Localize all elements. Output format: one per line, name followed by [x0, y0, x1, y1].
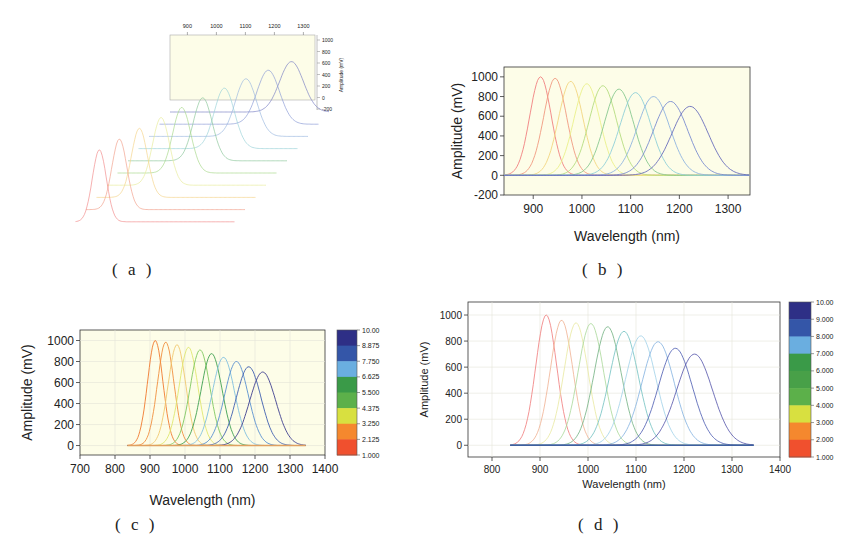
x-tick-label: 900: [532, 464, 549, 475]
x-tick-label: 1100: [239, 23, 251, 29]
colorbar-tick-label: 2.125: [362, 436, 380, 443]
x-tick-label: 900: [183, 23, 192, 29]
y-tick-label: 200: [478, 149, 498, 163]
colorbar-segment: [789, 371, 811, 389]
chart-c: 7008009001000110012001300140010008006004…: [0, 315, 400, 515]
colorbar-tick-label: 3.250: [362, 420, 380, 427]
colorbar-segment: [337, 408, 357, 424]
x-tick-label: 1100: [618, 202, 644, 216]
colorbar-segment: [789, 388, 811, 406]
colorbar-segment: [337, 393, 357, 409]
y-axis-title: Amplitude (mV): [338, 57, 344, 92]
panel-b: 900100011001200130010008006004002000-200…: [440, 50, 780, 250]
colorbar-segment: [789, 354, 811, 372]
x-tick-label: 1000: [569, 202, 596, 216]
y-tick-label: 0: [456, 440, 462, 451]
colorbar-tick-label: 3.000: [816, 419, 834, 426]
y-tick-label: 200: [322, 83, 331, 89]
x-tick-label: 1100: [207, 462, 233, 476]
x-tick-label: 900: [523, 202, 543, 216]
colorbar-tick-label: 5.500: [362, 389, 380, 396]
chart-b: 900100011001200130010008006004002000-200…: [440, 50, 780, 250]
x-tick-label: 1300: [297, 23, 309, 29]
y-tick-label: 200: [445, 414, 462, 425]
y-tick-label: 1000: [471, 70, 498, 84]
colorbar-segment: [789, 440, 811, 458]
y-tick-label: 800: [478, 90, 498, 104]
x-tick-label: 900: [140, 462, 160, 476]
y-tick-label: 600: [478, 109, 498, 123]
x-tick-label: 1000: [577, 464, 600, 475]
x-tick-label: 1300: [277, 462, 304, 476]
y-tick-label: 800: [54, 355, 74, 369]
y-tick-label: 0: [491, 169, 498, 183]
y-tick-label: 600: [54, 376, 74, 390]
chart-a-waterfall: 900100011001200130010008006004002000-200…: [0, 0, 400, 250]
colorbar-segment: [337, 439, 357, 455]
colorbar-tick-label: 6.625: [362, 373, 380, 380]
y-tick-label: 1000: [47, 334, 74, 348]
colorbar-tick-label: 7.750: [362, 358, 380, 365]
waterfall-trace-4: [107, 118, 266, 186]
colorbar-tick-label: 5.000: [816, 385, 834, 392]
colorbar-tick-label: 10.00: [362, 327, 380, 334]
colorbar-segment: [789, 423, 811, 441]
colorbar-segment: [789, 405, 811, 423]
y-tick-label: 600: [445, 362, 462, 373]
x-tick-label: 1200: [666, 202, 693, 216]
y-tick-label: 400: [54, 397, 74, 411]
y-tick-label: 1000: [322, 37, 333, 43]
colorbar-segment: [337, 346, 357, 362]
colorbar-tick-label: 6.000: [816, 367, 834, 374]
x-tick-label: 1200: [673, 464, 696, 475]
x-tick-label: 1100: [625, 464, 647, 475]
x-tick-label: 800: [105, 462, 125, 476]
colorbar-tick-label: 1.000: [362, 452, 380, 459]
y-tick-label: 800: [445, 336, 462, 347]
y-tick-label: 200: [54, 418, 74, 432]
colorbar-segment: [789, 319, 811, 337]
y-tick-label: 400: [478, 129, 498, 143]
colorbar-segment: [337, 330, 357, 346]
x-tick-label: 700: [70, 462, 90, 476]
waterfall-trace-5: [118, 108, 277, 173]
y-axis-title: Amplitude (mV): [19, 344, 35, 440]
colorbar-segment: [337, 377, 357, 393]
x-tick-label: 1300: [721, 464, 744, 475]
x-axis-title: Wavelength (nm): [582, 478, 665, 490]
colorbar-segment: [337, 424, 357, 440]
y-axis-title: Amplitude (mV): [418, 342, 430, 418]
chart-d: 8009001000110012001300140010008006004002…: [410, 275, 849, 510]
y-axis-title: Amplitude (mV): [449, 83, 465, 179]
colorbar-tick-label: 4.375: [362, 405, 380, 412]
panel-a: 900100011001200130010008006004002000-200…: [0, 0, 400, 260]
colorbar-segment: [337, 361, 357, 377]
y-tick-label: 0: [67, 439, 74, 453]
x-tick-label: 1000: [172, 462, 199, 476]
caption-a: ( a ): [112, 260, 154, 280]
x-axis-title: Wavelength (nm): [574, 228, 680, 244]
panel-d: 8009001000110012001300140010008006004002…: [410, 275, 849, 510]
y-tick-label: 600: [322, 60, 331, 66]
y-tick-label: 0: [322, 95, 325, 101]
y-tick-label: -200: [474, 188, 498, 202]
colorbar-segment: [789, 302, 811, 320]
caption-d: ( d ): [578, 515, 621, 535]
x-tick-label: 1400: [769, 464, 792, 475]
x-tick-label: 1200: [268, 23, 280, 29]
y-tick-label: 800: [322, 49, 331, 55]
y-tick-label: 1000: [440, 310, 463, 321]
colorbar-tick-label: 7.000: [816, 350, 834, 357]
colorbar-tick-label: 2.000: [816, 436, 834, 443]
back-plane: [170, 35, 315, 100]
waterfall-trace-3: [97, 128, 256, 197]
panel-c: 7008009001000110012001300140010008006004…: [0, 315, 400, 515]
colorbar-tick-label: 10.00: [816, 299, 834, 306]
x-tick-label: 1400: [312, 462, 339, 476]
caption-c: ( c ): [115, 515, 157, 535]
colorbar-segment: [789, 336, 811, 354]
waterfall-trace-6: [128, 98, 287, 161]
x-tick-label: 1000: [210, 23, 222, 29]
colorbar-tick-label: 4.000: [816, 402, 834, 409]
x-tick-label: 800: [484, 464, 501, 475]
